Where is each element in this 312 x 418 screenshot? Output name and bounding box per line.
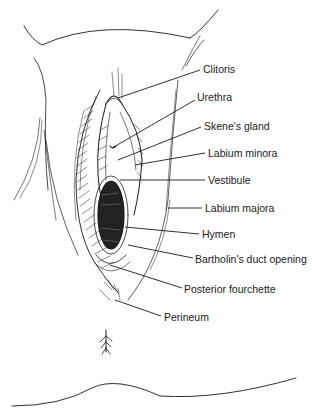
buttock-contour	[12, 378, 296, 406]
leader-skenes-gland	[118, 127, 201, 160]
label-urethra: Urethra	[197, 92, 232, 103]
left-thigh-contour	[34, 58, 48, 190]
label-labium-minora: Labium minora	[208, 148, 277, 159]
right-minora	[122, 104, 142, 215]
label-hymen: Hymen	[202, 229, 235, 240]
mons-contour	[24, 26, 190, 45]
leader-clitoris	[118, 70, 200, 98]
leader-hymen	[125, 227, 199, 234]
right-majora-contour	[128, 80, 178, 300]
label-skenes-gland: Skene's gland	[204, 121, 270, 132]
label-vestibule: Vestibule	[208, 175, 251, 186]
label-bartholins-duct-opening: Bartholin's duct opening	[195, 254, 307, 265]
vaginal-orifice	[98, 181, 124, 249]
leader-perineum	[115, 300, 161, 316]
label-labium-majora: Labium majora	[205, 203, 274, 214]
label-perineum: Perineum	[164, 312, 209, 323]
leader-bartholins-duct	[128, 245, 193, 258]
label-clitoris: Clitoris	[203, 64, 235, 75]
anatomy-diagram: Clitoris Urethra Skene's gland Labium mi…	[0, 0, 312, 418]
leader-posterior-fourchette	[110, 265, 182, 288]
label-posterior-fourchette: Posterior fourchette	[184, 284, 276, 295]
